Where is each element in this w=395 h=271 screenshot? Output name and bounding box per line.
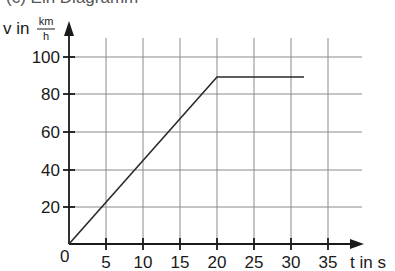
svg-text:25: 25: [245, 253, 264, 271]
svg-text:v in: v in: [3, 19, 29, 38]
svg-text:5: 5: [101, 253, 110, 271]
svg-text:30: 30: [282, 253, 301, 271]
x-axis-arrow-icon: [350, 239, 364, 249]
y-axis-label: v in km h: [3, 15, 55, 42]
svg-text:100: 100: [32, 48, 60, 67]
svg-text:km: km: [39, 15, 54, 27]
x-tick-labels: 5 10 15 20 25 30 35: [101, 253, 337, 271]
svg-text:h: h: [43, 30, 49, 42]
svg-text:10: 10: [134, 253, 153, 271]
svg-text:40: 40: [41, 161, 60, 180]
velocity-chart: 20 40 60 80 100 0 5 10 15 20 25 30 35 t …: [0, 0, 395, 271]
grid: [69, 38, 362, 244]
svg-text:20: 20: [41, 198, 60, 217]
svg-text:20: 20: [208, 253, 227, 271]
series-line: [69, 77, 304, 244]
y-tick-labels: 20 40 60 80 100: [32, 48, 60, 217]
svg-text:15: 15: [171, 253, 190, 271]
y-axis-arrow-icon: [64, 21, 74, 36]
origin-label: 0: [60, 247, 69, 266]
svg-text:60: 60: [41, 123, 60, 142]
svg-text:35: 35: [319, 253, 338, 271]
svg-text:80: 80: [41, 85, 60, 104]
x-axis-label: t in s: [350, 253, 386, 271]
axes: [63, 30, 358, 250]
